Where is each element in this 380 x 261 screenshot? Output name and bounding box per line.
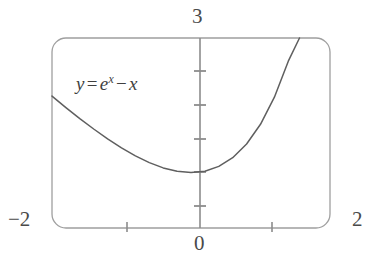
- equation-term: x: [129, 73, 138, 94]
- viewing-window-frame: [52, 38, 330, 228]
- origin-label: 0: [194, 233, 205, 254]
- function-curve: [52, 38, 300, 173]
- equation-annotation: y=ex−x: [76, 73, 138, 95]
- x-axis-max-label: 2: [352, 209, 363, 230]
- equation-equals: =: [85, 73, 100, 94]
- function-plot-figure: 3 −2 2 0 y=ex−x: [0, 0, 380, 261]
- equation-minus: −: [114, 73, 129, 94]
- plot-canvas: [0, 0, 380, 261]
- y-axis-max-label: 3: [192, 6, 203, 27]
- equation-lhs: y: [76, 73, 85, 94]
- x-axis-min-label: −2: [8, 209, 30, 230]
